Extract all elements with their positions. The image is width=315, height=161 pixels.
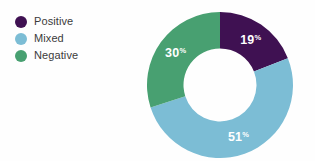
- legend-label-negative: Negative: [34, 50, 78, 61]
- legend-item-negative[interactable]: Negative: [15, 47, 130, 64]
- chart-legend: Positive Mixed Negative: [15, 13, 130, 64]
- legend-label-positive: Positive: [34, 16, 73, 27]
- donut-chart: 19%51%30%: [146, 12, 294, 158]
- legend-swatch-negative: [15, 50, 27, 62]
- donut-slices: [147, 12, 293, 158]
- donut-slice-negative[interactable]: [147, 12, 220, 108]
- legend-item-positive[interactable]: Positive: [15, 13, 130, 30]
- legend-swatch-mixed: [15, 33, 27, 45]
- legend-item-mixed[interactable]: Mixed: [15, 30, 130, 47]
- legend-swatch-positive: [15, 16, 27, 28]
- legend-label-mixed: Mixed: [34, 33, 64, 44]
- chart-page: Positive Mixed Negative 19%51%30%: [0, 0, 315, 161]
- donut-chart-svg: 19%51%30%: [146, 12, 294, 158]
